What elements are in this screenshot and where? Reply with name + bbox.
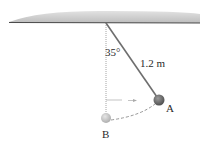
ceiling-edge [9,23,200,24]
swing-arc [111,104,155,120]
ceiling-fill [9,11,200,23]
arrowhead-icon [133,99,137,102]
horizontal-displacement-line [106,99,137,102]
ball-b [101,113,111,123]
pendulum-diagram [0,0,200,145]
ball-a [154,95,165,106]
ceiling [9,11,200,23]
length-label: 1.2 m [140,58,165,69]
point-b-label: B [102,129,109,140]
angle-label: 35° [105,47,120,58]
point-a-label: A [166,103,174,114]
